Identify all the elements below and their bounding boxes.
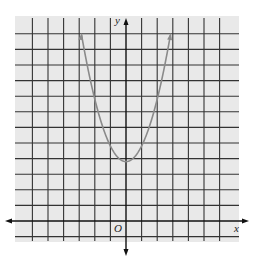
coordinate-plane	[0, 0, 255, 261]
x-axis-label: x	[234, 222, 239, 234]
y-axis-label: y	[115, 14, 120, 26]
origin-label: O	[114, 222, 122, 234]
